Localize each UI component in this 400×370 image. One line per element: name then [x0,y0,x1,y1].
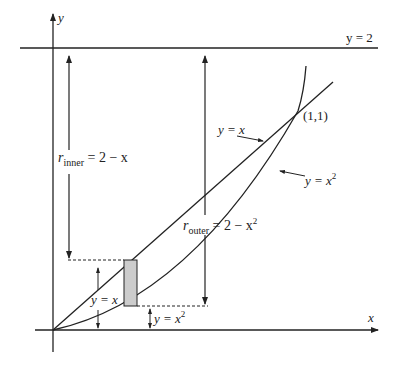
height-lower-label: y = x2 [152,309,185,326]
diagram-svg: y x y = 2 rinner = 2 − x router = 2 − x2… [0,0,400,370]
curve-y-equals-x-squared [53,66,306,330]
intersection-label: (1,1) [303,108,328,123]
curve-label: y = x2 [303,171,336,188]
r-inner-label: rinner = 2 − x [58,150,128,168]
line-label-pointer [237,136,263,141]
washer-strip [124,260,137,306]
y-axis-label: y [56,10,64,25]
x-axis-label: x [367,310,374,325]
height-upper-label: y = x [89,292,118,307]
washer-method-diagram: y x y = 2 rinner = 2 − x router = 2 − x2… [0,0,400,370]
line-y-equals-2-label: y = 2 [346,30,373,45]
line-y-equals-x-label: y = x [216,122,245,137]
curve-label-pointer [280,171,305,176]
r-outer-label: router = 2 − x2 [183,216,257,236]
